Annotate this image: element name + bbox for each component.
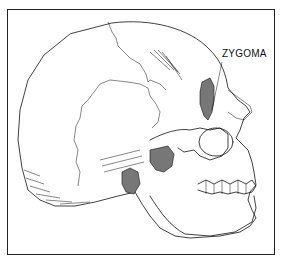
cranium-outline <box>18 22 256 238</box>
mandible <box>150 196 256 236</box>
zygomatic-bone <box>200 78 214 120</box>
squamosal-suture <box>110 80 160 128</box>
mastoid-process <box>122 168 140 194</box>
nasal-region <box>228 90 252 120</box>
teeth <box>198 180 256 194</box>
coronal-suture <box>108 22 166 90</box>
skull-illustration <box>0 0 281 263</box>
temporal-suture <box>74 80 110 186</box>
occipital-hatching <box>24 170 90 204</box>
temporal-fossa <box>150 146 174 172</box>
zygoma-label: ZYGOMA <box>222 48 267 59</box>
